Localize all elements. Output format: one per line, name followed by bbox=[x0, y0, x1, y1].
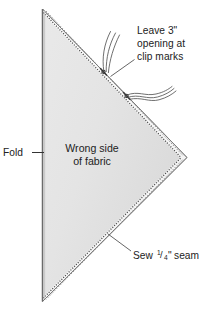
label-seam: Sew 1 / 4 " seam bbox=[133, 249, 199, 261]
thread-tails-lower bbox=[127, 87, 176, 101]
label-seam-prefix: Sew bbox=[133, 250, 154, 261]
label-opening-line2: opening at bbox=[137, 38, 185, 49]
label-seam-unit: " bbox=[168, 250, 172, 261]
sewing-diagram-svg: Fold Wrong side of fabric Leave 3" openi… bbox=[0, 0, 203, 310]
label-seam-suffix: seam bbox=[174, 250, 199, 261]
label-wrong-side-line1: Wrong side bbox=[65, 142, 118, 154]
leader-line-seam bbox=[108, 234, 131, 251]
leader-line-opening bbox=[111, 60, 135, 77]
label-wrong-side-line2: of fabric bbox=[73, 155, 111, 167]
label-fold: Fold bbox=[3, 147, 23, 158]
label-opening-line1: Leave 3" bbox=[137, 25, 178, 36]
diagram-canvas: Fold Wrong side of fabric Leave 3" openi… bbox=[0, 0, 203, 310]
label-opening-line3: clip marks bbox=[137, 51, 183, 62]
thread-tails-upper bbox=[103, 32, 119, 73]
label-seam-slash: / bbox=[160, 249, 163, 260]
